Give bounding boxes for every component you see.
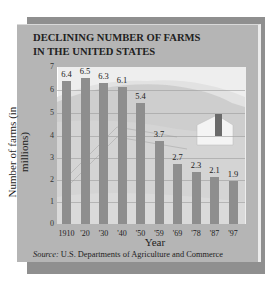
bar bbox=[136, 103, 145, 224]
bar-value-label: 3.7 bbox=[147, 129, 171, 139]
source-note: Source: U.S. Departments of Agriculture … bbox=[33, 250, 223, 259]
bar bbox=[118, 87, 127, 224]
y-tick: 6 bbox=[40, 85, 54, 94]
bar-value-label: 6.1 bbox=[110, 75, 134, 85]
bar-value-label: 1.9 bbox=[221, 169, 245, 179]
y-tick: 2 bbox=[40, 175, 54, 184]
y-tick: 4 bbox=[40, 131, 54, 140]
bar bbox=[173, 164, 182, 224]
bar bbox=[62, 81, 71, 224]
bar bbox=[99, 83, 108, 224]
y-tick: 1 bbox=[40, 197, 54, 206]
bar bbox=[155, 141, 164, 224]
bar bbox=[229, 181, 238, 224]
source-label: Source: bbox=[33, 250, 59, 259]
y-tick: 7 bbox=[40, 62, 54, 71]
bar bbox=[81, 78, 90, 224]
source-text: U.S. Departments of Agriculture and Comm… bbox=[59, 250, 223, 259]
y-axis-label: Number of farms (in millions) bbox=[6, 92, 30, 212]
chart-title: DECLINING NUMBER OF FARMS IN THE UNITED … bbox=[33, 31, 200, 59]
y-tick: 5 bbox=[40, 108, 54, 117]
title-line-2: IN THE UNITED STATES bbox=[33, 45, 200, 59]
x-tick: '97 bbox=[221, 229, 245, 238]
x-axis-label: Year bbox=[130, 236, 180, 248]
bar bbox=[192, 172, 201, 224]
y-tick: 0 bbox=[40, 219, 54, 228]
title-line-1: DECLINING NUMBER OF FARMS bbox=[33, 31, 200, 45]
bar bbox=[210, 177, 219, 224]
bar-value-label: 5.4 bbox=[129, 91, 153, 101]
y-tick: 3 bbox=[40, 153, 54, 162]
